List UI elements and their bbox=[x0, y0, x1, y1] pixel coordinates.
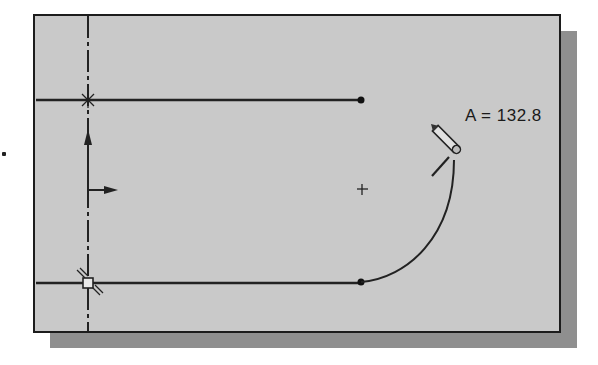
dimension-label: A = 132.8 bbox=[465, 106, 542, 126]
arc-tangent-indicator bbox=[432, 157, 449, 176]
origin-arrows-icon bbox=[84, 129, 118, 194]
sketch-point-square[interactable] bbox=[83, 278, 93, 288]
top-line-endpoint[interactable] bbox=[358, 97, 365, 104]
pencil-cursor-icon bbox=[428, 121, 462, 155]
sketch-canvas[interactable] bbox=[35, 16, 559, 331]
sketch-viewport[interactable]: A = 132.8 bbox=[33, 14, 561, 333]
center-mark-icon bbox=[357, 184, 368, 195]
rubber-band-arc[interactable] bbox=[361, 160, 454, 282]
stray-dot bbox=[2, 152, 6, 156]
